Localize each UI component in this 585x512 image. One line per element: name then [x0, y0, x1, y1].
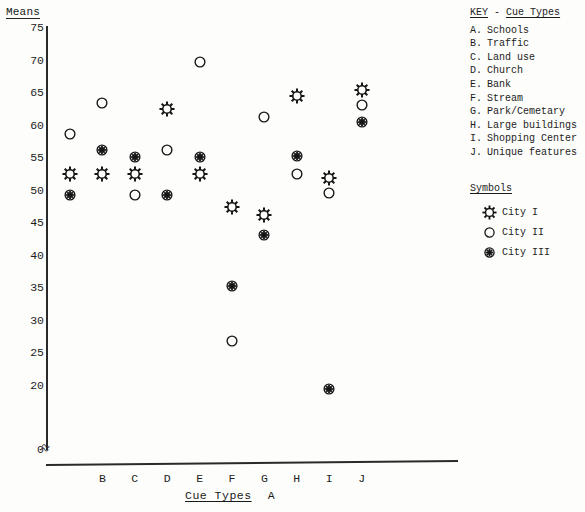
data-point-city-i-E: [192, 166, 208, 182]
x-tick-G: G: [254, 472, 274, 485]
data-point-city-ii-C: [127, 187, 143, 203]
symbols-heading-text: Symbols: [470, 183, 512, 194]
key-item-j: J.Unique features: [470, 146, 582, 160]
key-item-a: A.Schools: [470, 24, 582, 38]
data-point-city-i-D: [159, 101, 175, 117]
legend-item-city-i: City I: [470, 202, 582, 222]
key-item-label: Unique features: [487, 146, 582, 160]
key-item-label: Bank: [487, 78, 582, 92]
key-item-letter: E.: [470, 78, 487, 92]
axis-break-icon: ≈: [41, 440, 57, 458]
chart-canvas: Means 7570656055504540353025200 ≈ BCDEFG…: [0, 0, 585, 512]
key-heading-subject: Cue Types: [506, 7, 560, 18]
y-tick-45: 45: [10, 217, 44, 228]
legend-item-city-iii: City III: [470, 242, 582, 262]
data-point-city-i-A: [62, 166, 78, 182]
key-item-label: Shopping Center: [487, 132, 582, 146]
y-axis-line: [46, 26, 48, 450]
legend-item-label: City III: [502, 246, 582, 259]
key-item-letter: A.: [470, 24, 487, 38]
x-tick-H: H: [287, 472, 307, 485]
data-point-city-iii-E: [192, 149, 208, 165]
data-point-city-iii-A: [62, 187, 78, 203]
data-point-city-iii-B: [94, 142, 110, 158]
key-item-letter: G.: [470, 105, 487, 119]
data-point-city-i-B: [94, 166, 110, 182]
data-point-city-i-C: [127, 166, 143, 182]
x-tick-C: C: [125, 472, 145, 485]
starburst-filled-icon: [470, 245, 502, 260]
y-tick-55: 55: [10, 152, 44, 163]
key-item-c: C.Land use: [470, 51, 582, 65]
key-item-f: F.Stream: [470, 92, 582, 106]
key-item-letter: J.: [470, 146, 487, 160]
key-item-i: I.Shopping Center: [470, 132, 582, 146]
key-panel: KEY - Cue Types A.SchoolsB.TrafficC.Land…: [470, 6, 582, 160]
x-tick-D: D: [157, 472, 177, 485]
data-point-city-iii-F: [224, 278, 240, 294]
data-point-city-i-F: [224, 199, 240, 215]
key-item-e: E.Bank: [470, 78, 582, 92]
y-tick-65: 65: [10, 87, 44, 98]
data-point-city-i-J: [354, 82, 370, 98]
data-point-city-ii-D: [159, 142, 175, 158]
key-item-letter: B.: [470, 37, 487, 51]
y-tick-20: 20: [10, 380, 44, 391]
data-point-city-ii-B: [94, 95, 110, 111]
data-point-city-ii-J: [354, 97, 370, 113]
data-point-city-iii-H: [289, 148, 305, 164]
data-point-city-i-H: [289, 88, 305, 104]
y-tick-50: 50: [10, 185, 44, 196]
key-item-letter: F.: [470, 92, 487, 106]
x-axis-category-a: A: [268, 489, 275, 502]
symbols-panel: Symbols City ICity IICity III: [470, 182, 582, 262]
key-item-b: B.Traffic: [470, 37, 582, 51]
y-axis-tick-labels: 7570656055504540353025200: [0, 0, 44, 512]
key-item-label: Large buildings: [487, 119, 582, 133]
x-tick-E: E: [190, 472, 210, 485]
data-point-city-i-I: [321, 170, 337, 186]
data-point-city-ii-G: [256, 109, 272, 125]
key-item-label: Traffic: [487, 37, 582, 51]
data-point-city-iii-I: [321, 381, 337, 397]
key-item-label: Stream: [487, 92, 582, 106]
data-point-city-ii-A: [62, 126, 78, 142]
data-point-city-ii-F: [224, 333, 240, 349]
data-point-city-iii-C: [127, 149, 143, 165]
y-tick-25: 25: [10, 347, 44, 358]
key-item-letter: H.: [470, 119, 487, 133]
x-tick-F: F: [222, 472, 242, 485]
key-item-label: Park/Cemetary: [487, 105, 582, 119]
y-tick-75: 75: [10, 22, 44, 33]
data-point-city-ii-I: [321, 185, 337, 201]
key-item-letter: C.: [470, 51, 487, 65]
key-item-g: G.Park/Cemetary: [470, 105, 582, 119]
y-tick-60: 60: [10, 120, 44, 131]
data-point-city-iii-J: [354, 114, 370, 130]
key-item-h: H.Large buildings: [470, 119, 582, 133]
x-tick-J: J: [352, 472, 372, 485]
legend-item-label: City II: [502, 226, 582, 239]
x-axis-title-text: Cue Types: [185, 489, 252, 502]
key-item-d: D.Church: [470, 64, 582, 78]
key-item-label: Schools: [487, 24, 582, 38]
key-item-letter: D.: [470, 64, 487, 78]
data-point-city-iii-D: [159, 187, 175, 203]
y-tick-40: 40: [10, 250, 44, 261]
x-axis-line: [46, 460, 458, 465]
data-point-city-ii-E: [192, 54, 208, 70]
starburst-outline-icon: [470, 205, 502, 220]
symbols-heading: Symbols: [470, 182, 582, 195]
key-item-letter: I.: [470, 132, 487, 146]
circle-outline-icon: [470, 225, 502, 240]
y-tick-35: 35: [10, 282, 44, 293]
data-point-city-i-G: [256, 207, 272, 223]
key-item-label: Land use: [487, 51, 582, 65]
data-point-city-ii-H: [289, 166, 305, 182]
x-tick-B: B: [92, 472, 112, 485]
y-tick-70: 70: [10, 55, 44, 66]
legend-item-city-ii: City II: [470, 222, 582, 242]
legend-item-label: City I: [502, 206, 582, 219]
key-heading-dash: -: [494, 7, 500, 18]
x-axis-title: Cue TypesA: [185, 489, 275, 502]
